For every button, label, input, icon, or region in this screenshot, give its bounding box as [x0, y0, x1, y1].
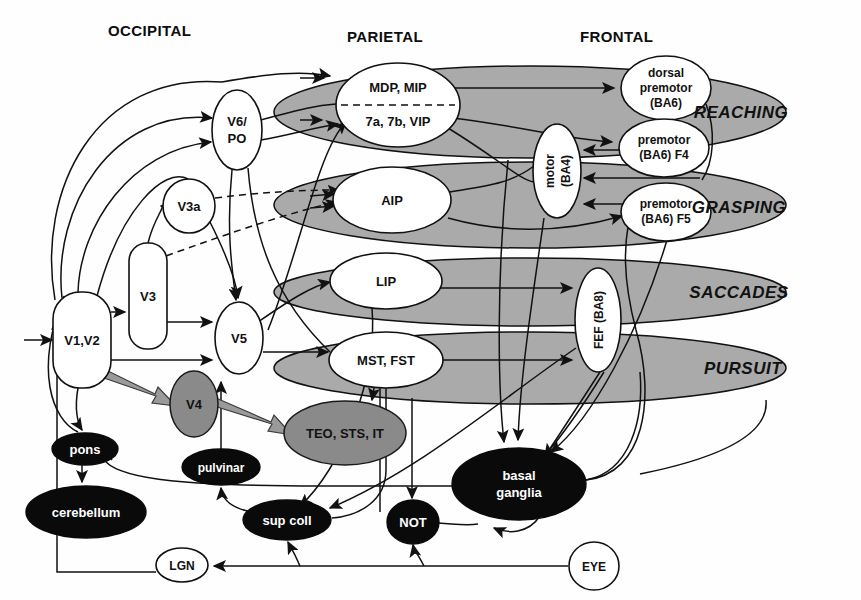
svg-text:PO: PO	[228, 131, 247, 146]
node-cerebellum[interactable]: cerebellum	[26, 486, 146, 538]
svg-text:premotor: premotor	[640, 197, 693, 211]
edge-motor-to-basal-1	[518, 218, 544, 440]
svg-text:MDP, MIP: MDP, MIP	[369, 80, 427, 95]
diagram-canvas: V1,V2 V3 V3a V6/ PO V5 V4 TEO, STS, IT M…	[0, 0, 861, 600]
svg-text:NOT: NOT	[399, 515, 427, 530]
header-occipital: OCCIPITAL	[108, 22, 191, 39]
svg-text:(BA6) F4: (BA6) F4	[639, 148, 689, 162]
edge-eye-to-not	[413, 545, 424, 566]
svg-text:MST, FST: MST, FST	[357, 353, 415, 368]
svg-text:V3a: V3a	[177, 199, 201, 214]
svg-text:premotor: premotor	[638, 133, 691, 147]
svg-text:V3: V3	[140, 289, 156, 304]
svg-text:TEO, STS, IT: TEO, STS, IT	[306, 426, 384, 441]
svg-text:V4: V4	[186, 397, 203, 412]
svg-text:dorsal: dorsal	[648, 66, 684, 80]
node-lgn[interactable]: LGN	[156, 548, 208, 582]
node-fef-ba8[interactable]: FEF (BA8)	[575, 268, 621, 372]
header-frontal: FRONTAL	[580, 28, 653, 45]
node-motor-ba4[interactable]: motor (BA4)	[533, 124, 581, 218]
svg-text:FEF (BA8): FEF (BA8)	[592, 291, 606, 349]
node-pons[interactable]: pons	[52, 433, 118, 465]
svg-text:LIP: LIP	[376, 274, 397, 289]
node-v6-po[interactable]: V6/ PO	[212, 90, 262, 170]
node-v3[interactable]: V3	[129, 243, 167, 349]
node-v4[interactable]: V4	[170, 371, 218, 437]
band-label-reaching: REACHING	[694, 103, 789, 122]
node-v3a[interactable]: V3a	[163, 179, 215, 233]
edge-v1v2-to-pons	[76, 388, 82, 430]
ventral-stream-arrow-v4-teo	[214, 398, 292, 435]
node-sup-coll[interactable]: sup coll	[243, 500, 331, 540]
band-label-saccades: SACCADES	[689, 283, 789, 302]
node-v5[interactable]: V5	[215, 302, 263, 374]
node-not[interactable]: NOT	[387, 500, 439, 544]
node-mdp-mip-7a[interactable]: MDP, MIP 7a, 7b, VIP	[336, 63, 460, 147]
svg-text:pulvinar: pulvinar	[198, 461, 245, 475]
svg-text:(BA6): (BA6)	[650, 96, 682, 110]
svg-text:V5: V5	[231, 331, 247, 346]
svg-text:LGN: LGN	[169, 559, 194, 573]
svg-text:basal: basal	[502, 468, 535, 483]
band-label-pursuit: PURSUIT	[704, 359, 783, 378]
edge-long-to-pons	[106, 462, 496, 486]
ventral-stream-arrow-v1v2-v4	[104, 370, 176, 406]
svg-text:ganglia: ganglia	[496, 485, 542, 500]
node-pulvinar[interactable]: pulvinar	[182, 449, 260, 485]
node-mst-fst[interactable]: MST, FST	[329, 332, 443, 388]
svg-text:(BA6) F5: (BA6) F5	[641, 212, 691, 226]
svg-text:V1,V2: V1,V2	[64, 333, 99, 348]
svg-text:motor: motor	[543, 154, 557, 188]
svg-text:premotor: premotor	[640, 81, 693, 95]
node-basal-ganglia[interactable]: basal ganglia	[452, 448, 586, 520]
svg-text:AIP: AIP	[381, 193, 403, 208]
edge-pursuit-to-basal	[640, 400, 766, 474]
header-parietal: PARIETAL	[347, 28, 423, 45]
pathway-diagram-svg: V1,V2 V3 V3a V6/ PO V5 V4 TEO, STS, IT M…	[0, 0, 861, 600]
svg-text:EYE: EYE	[582, 560, 606, 574]
node-eye[interactable]: EYE	[569, 542, 619, 590]
edge-eye-to-supcoll	[288, 542, 300, 566]
edge-v3-to-v3a	[148, 206, 162, 243]
svg-text:sup coll: sup coll	[262, 513, 311, 528]
svg-text:7a, 7b, VIP: 7a, 7b, VIP	[365, 114, 430, 129]
node-teo-sts-it[interactable]: TEO, STS, IT	[284, 401, 406, 465]
node-lip[interactable]: LIP	[330, 253, 442, 309]
edge-supcoll-to-pulvinar	[221, 488, 252, 512]
node-v1v2[interactable]: V1,V2	[53, 292, 111, 388]
svg-text:cerebellum: cerebellum	[52, 505, 121, 520]
svg-text:V6/: V6/	[227, 114, 247, 129]
band-label-grasping: GRASPING	[692, 198, 787, 217]
svg-text:pons: pons	[69, 442, 100, 457]
node-aip[interactable]: AIP	[333, 167, 451, 233]
node-premotor-ba6-f4[interactable]: premotor (BA6) F4	[619, 119, 709, 177]
svg-text:(BA4): (BA4)	[559, 155, 573, 187]
